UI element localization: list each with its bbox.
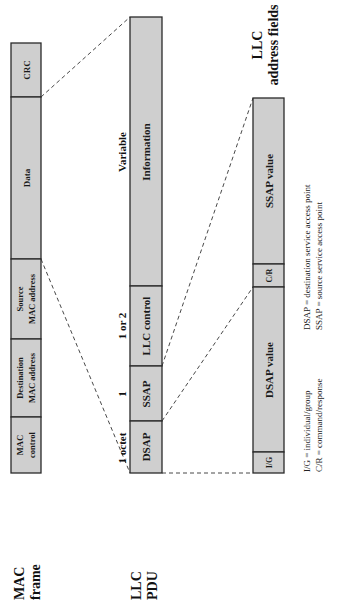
expansion-line-data-top (41, 17, 130, 97)
llc-address-label-line2: address fields (266, 4, 281, 86)
field-llc-control-label: LLC control (140, 297, 152, 356)
field-ig-label: I/G (265, 457, 274, 469)
legend-ig: I/G = individual/group (302, 390, 312, 472)
expansion-line-ssap-top (162, 98, 253, 366)
legend-dsap: DSAP = destination service access point (302, 184, 312, 330)
field-mac-control-line1: MAC (15, 435, 25, 455)
expansion-line-dsap-ssap-boundary (162, 287, 253, 421)
llc-frame-format-diagram: MAC frame CRC Data Source MAC address De… (0, 0, 344, 608)
field-mac-control-line2: control (27, 431, 37, 457)
mac-frame-label-line1: MAC (12, 567, 27, 600)
field-dsap-label: DSAP (140, 432, 152, 461)
field-dsap-value-label: DSAP value (263, 342, 275, 398)
field-information-label: Information (140, 123, 152, 180)
llc-pdu-row: LLC PDU 1 octet 1 1 or 2 Variable Inform… (116, 17, 162, 600)
field-source-mac-line1: Source (15, 286, 25, 311)
size-information: Variable (116, 132, 128, 172)
mac-frame-row: MAC frame CRC Data Source MAC address De… (11, 43, 43, 600)
field-ssap-label: SSAP (140, 380, 152, 407)
size-ssap: 1 (116, 391, 128, 397)
llc-address-fields-row: LLC address fields SSAP value C/R DSAP v… (250, 4, 284, 473)
field-destination-mac-line2: MAC address (27, 352, 37, 403)
field-destination-mac-line1: Destination (15, 357, 25, 399)
mac-frame-label-line2: frame (28, 564, 43, 600)
field-cr-label: C/R (265, 268, 274, 282)
field-source-mac-line2: MAC address (27, 273, 37, 324)
size-llc-control: 1 or 2 (116, 312, 128, 339)
legend-cr: C/R = command/response (314, 378, 324, 472)
field-ssap-value-label: SSAP value (263, 154, 275, 208)
legend: I/G = individual/group C/R = command/res… (302, 184, 324, 472)
field-crc-label: CRC (22, 60, 32, 80)
llc-pdu-label-line2: PDU (145, 571, 160, 600)
legend-ssap: SSAP = source service access point (314, 202, 324, 330)
size-dsap: 1 octet (116, 432, 128, 463)
field-data-label: Data (22, 168, 32, 187)
llc-address-label-line1: LLC (250, 31, 265, 60)
llc-pdu-label-line1: LLC (129, 571, 144, 600)
